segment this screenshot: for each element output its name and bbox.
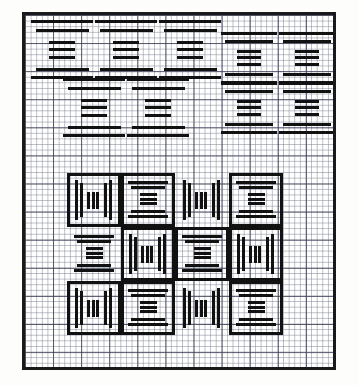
target-bar (236, 215, 276, 218)
target-bar (128, 215, 168, 218)
target-bar (295, 56, 319, 59)
target-bar (195, 192, 198, 209)
target-bar (86, 247, 103, 250)
target-bar (188, 291, 191, 325)
target-bar (134, 237, 137, 271)
target-bar (104, 291, 107, 325)
target-bar (145, 99, 171, 102)
cell-bar-target (74, 234, 114, 274)
target-bar (140, 310, 157, 313)
target-bar (75, 288, 78, 328)
cell-outline-t (121, 173, 175, 176)
target-bar (63, 134, 125, 137)
target-bar (163, 234, 166, 274)
target-bar (77, 240, 111, 243)
target-bar (31, 20, 93, 23)
target-bar (242, 237, 245, 271)
cell-outline-t (121, 281, 175, 284)
cell-outline-t (229, 173, 283, 176)
target-bar (140, 198, 157, 201)
target-bar (225, 123, 273, 126)
target-bar (225, 90, 273, 93)
target-bar (145, 106, 171, 109)
bar-target-t2 (95, 19, 157, 83)
target-bar (128, 289, 168, 292)
target-bar (140, 193, 157, 196)
target-bar (279, 82, 335, 85)
checkerboard-cell-r1-c0 (67, 227, 121, 281)
target-bar (194, 252, 211, 255)
target-bar (141, 246, 144, 263)
target-bar (140, 306, 157, 309)
target-bar (182, 269, 222, 272)
cell-outline-t (67, 281, 121, 284)
cell-bar-target (74, 180, 114, 220)
target-bar (131, 186, 165, 189)
resolution-test-chart: Resolution Test Chart (0, 0, 359, 386)
target-bar (295, 50, 319, 53)
bar-target-t7 (279, 31, 335, 87)
checkerboard-cell-r0-c2 (175, 173, 229, 227)
target-bar (177, 56, 203, 59)
target-bar (177, 41, 203, 44)
target-bar (128, 181, 168, 184)
target-bar (49, 41, 75, 44)
cell-outline-l (175, 227, 178, 281)
target-bar (131, 210, 165, 213)
target-bar (132, 126, 185, 129)
target-bar (86, 256, 103, 259)
target-bar (185, 240, 219, 243)
target-bar (74, 269, 114, 272)
cell-outline-t (67, 173, 121, 176)
target-bar (158, 237, 161, 271)
checkerboard-cell-r0-c3 (229, 173, 283, 227)
target-bar (81, 99, 107, 102)
target-bar (182, 235, 222, 238)
target-bar (104, 183, 107, 217)
target-bar (86, 252, 103, 255)
target-bar (129, 234, 132, 274)
bar-target-t8 (221, 81, 277, 137)
target-bar (68, 87, 121, 90)
target-bar (80, 183, 83, 217)
target-bar (248, 310, 265, 313)
checkerboard-cell-r1-c3 (229, 227, 283, 281)
cell-bar-target (182, 234, 222, 274)
target-bar (131, 294, 165, 297)
target-bar (183, 288, 186, 328)
target-bar (237, 113, 261, 116)
target-bar (283, 40, 331, 43)
target-bar (113, 41, 139, 44)
cell-bar-target (128, 180, 168, 220)
cell-bar-target (182, 288, 222, 328)
bar-target-t4 (63, 77, 125, 141)
cell-outline-l (229, 227, 232, 281)
target-bar (140, 202, 157, 205)
target-bar (212, 291, 215, 325)
target-bar (248, 193, 265, 196)
target-bar (109, 288, 112, 328)
target-bar (145, 114, 171, 117)
target-bar (248, 198, 265, 201)
target-bar (87, 192, 90, 209)
cell-outline-l (121, 281, 124, 335)
target-bar (295, 106, 319, 109)
checkerboard-cell-r2-c0 (67, 281, 121, 335)
target-bar (127, 78, 189, 81)
target-bar (36, 29, 89, 32)
target-bar (237, 50, 261, 53)
target-bar (249, 246, 252, 263)
target-bar (194, 247, 211, 250)
target-bar (239, 294, 273, 297)
target-bar (295, 113, 319, 116)
cell-outline-r (280, 227, 283, 281)
target-bar (221, 82, 277, 85)
target-bar (225, 40, 273, 43)
target-bar (185, 264, 219, 267)
target-bar (164, 68, 217, 71)
bar-target-t3 (159, 19, 221, 83)
page-title: Resolution Test Chart (0, 21, 1, 22)
cell-bar-target (128, 288, 168, 328)
target-bar (95, 20, 157, 23)
cell-bar-target (236, 234, 276, 274)
